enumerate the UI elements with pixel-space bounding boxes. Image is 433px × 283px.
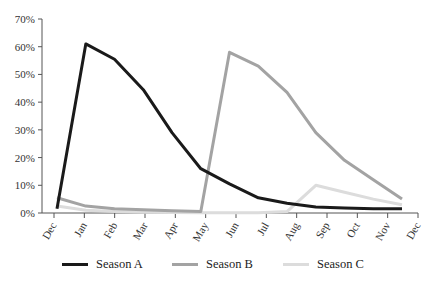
x-tick-label: Feb bbox=[101, 220, 120, 241]
x-tick-label: Jun bbox=[223, 220, 241, 240]
season-c-swatch-icon bbox=[283, 263, 309, 266]
legend-item-season-b: Season B bbox=[172, 257, 253, 272]
y-tick-label: 70% bbox=[15, 13, 35, 25]
y-tick-label: 10% bbox=[15, 179, 35, 191]
legend-item-season-c: Season C bbox=[283, 257, 364, 272]
season-b-swatch-icon bbox=[172, 263, 198, 266]
x-tick-label: Aug bbox=[282, 220, 302, 243]
y-tick-label: 40% bbox=[15, 96, 35, 108]
x-tick-label: Dec bbox=[403, 220, 422, 241]
x-tick-label: Apr bbox=[161, 220, 180, 241]
x-tick-label: May bbox=[190, 220, 211, 244]
legend: Season A Season B Season C bbox=[0, 257, 433, 277]
y-tick-label: 30% bbox=[15, 124, 35, 136]
x-tick-label: Jul bbox=[254, 220, 271, 237]
x-tick-label: Mar bbox=[130, 220, 150, 242]
legend-label: Season C bbox=[317, 257, 364, 272]
series-line-season-b bbox=[57, 52, 402, 211]
series-line-season-a bbox=[57, 44, 402, 209]
legend-label: Season B bbox=[206, 257, 253, 272]
x-tick-label: Sep bbox=[313, 220, 332, 241]
y-tick-label: 0% bbox=[20, 207, 35, 219]
x-tick-label: Dec bbox=[39, 220, 58, 241]
series-lines bbox=[57, 44, 402, 213]
legend-item-season-a: Season A bbox=[62, 257, 143, 272]
season-a-swatch-icon bbox=[62, 263, 88, 266]
y-axis: 0%10%20%30%40%50%60%70% bbox=[15, 13, 42, 219]
x-tick-label: Oct bbox=[344, 220, 362, 240]
x-axis: DecJanFebMarAprMayJunJulAugSepOctNovDec bbox=[39, 213, 422, 243]
legend-label: Season A bbox=[96, 257, 143, 272]
line-chart: 0%10%20%30%40%50%60%70% DecJanFebMarAprM… bbox=[0, 0, 433, 255]
x-tick-label: Nov bbox=[373, 220, 393, 243]
y-tick-label: 20% bbox=[15, 152, 35, 164]
y-tick-label: 50% bbox=[15, 68, 35, 80]
x-tick-label: Jan bbox=[71, 220, 89, 239]
y-tick-label: 60% bbox=[15, 41, 35, 53]
